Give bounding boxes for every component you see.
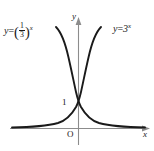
label-left-exponent: x bbox=[30, 24, 33, 31]
label-right-exponent: x bbox=[128, 22, 131, 29]
y-axis-arrowhead bbox=[76, 17, 82, 25]
x-axis-label: x bbox=[143, 130, 147, 139]
exponential-graph-figure: y=(13)x y=3x y x O 1 bbox=[0, 0, 154, 151]
curve-label-one-third-exponential: y=(13)x bbox=[4, 22, 33, 39]
y-intercept-tick-label: 1 bbox=[62, 98, 67, 107]
y-axis-label: y bbox=[72, 12, 76, 21]
curve-label-three-exponential: y=3x bbox=[113, 23, 131, 34]
curve-y-equals-one-third-pow-x bbox=[56, 27, 145, 128]
fraction-denominator: 3 bbox=[19, 30, 25, 39]
fraction-numerator: 1 bbox=[19, 22, 25, 30]
y-axis bbox=[76, 17, 82, 145]
origin-label: O bbox=[67, 130, 74, 139]
label-left-fraction: 13 bbox=[19, 22, 25, 39]
curve-y-equals-3-pow-x bbox=[12, 27, 101, 128]
